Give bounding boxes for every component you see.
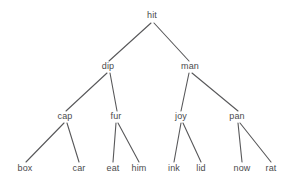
- tree-edge-cap-box: [26, 123, 64, 162]
- tree-node-now: now: [233, 163, 250, 173]
- tree-node-box: box: [17, 163, 32, 173]
- tree-edge-joy-lid: [183, 123, 201, 162]
- tree-edge-pan-now: [238, 123, 242, 162]
- tree-edge-hit-man: [154, 23, 189, 61]
- binary-tree-diagram: hitdipmancapfurjoypanboxcareathiminklidn…: [0, 0, 302, 182]
- tree-node-him: him: [131, 163, 146, 173]
- tree-canvas: hitdipmancapfurjoypanboxcareathiminklidn…: [0, 0, 302, 182]
- tree-node-dip: dip: [102, 61, 115, 71]
- tree-edge-group: [26, 23, 271, 162]
- tree-node-car: car: [72, 163, 85, 173]
- tree-node-rat: rat: [265, 163, 276, 173]
- tree-edge-fur-him: [118, 123, 139, 162]
- tree-edge-fur-eat: [113, 123, 116, 162]
- tree-node-fur: fur: [110, 111, 121, 121]
- tree-edge-pan-rat: [240, 123, 271, 162]
- tree-edge-dip-fur: [110, 73, 117, 111]
- tree-edge-hit-dip: [109, 23, 151, 61]
- tree-node-ink: ink: [168, 163, 180, 173]
- tree-edge-dip-cap: [66, 73, 107, 111]
- tree-node-cap: cap: [57, 111, 72, 121]
- tree-node-joy: joy: [174, 111, 187, 121]
- tree-edge-man-joy: [181, 73, 189, 111]
- tree-node-pan: pan: [229, 111, 245, 121]
- tree-node-hit: hit: [147, 10, 157, 20]
- tree-node-man: man: [181, 61, 199, 71]
- tree-edge-man-pan: [192, 73, 238, 111]
- tree-node-lid: lid: [196, 163, 206, 173]
- tree-edge-cap-car: [67, 123, 79, 162]
- tree-node-group: hitdipmancapfurjoypanboxcareathiminklidn…: [17, 10, 276, 173]
- tree-edge-joy-ink: [174, 123, 181, 162]
- tree-node-eat: eat: [106, 163, 119, 173]
